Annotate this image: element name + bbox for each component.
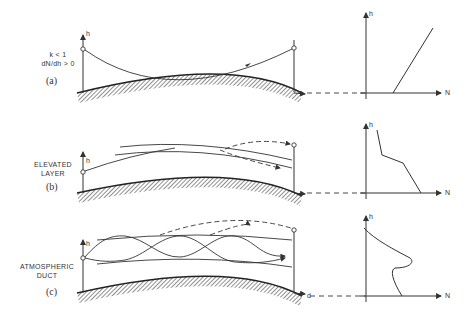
n-profile-c [364,228,412,296]
earth-surface-b [77,177,302,206]
receiver-antenna-b [292,143,296,147]
transmitter-antenna-b [81,170,85,174]
d-label-c: d [307,292,311,299]
h-label-profile-c: h [369,213,373,220]
panel-b [77,124,441,206]
duct-ray-1-c [85,236,285,257]
panel-a [77,13,441,103]
dashed-ray-escape-2-c [210,224,250,235]
n-label-profile-a: N [445,89,450,96]
condition-label-a: k < 1 dN/dh > 0 [38,50,78,68]
h-label-profile-a: h [369,10,373,17]
transmitter-antenna-c [81,256,85,260]
earth-surface-c [77,276,302,306]
panel-id-b: (b) [46,181,58,192]
h-label-mast-b: h [86,157,90,164]
panel-c [77,216,441,306]
condition-label-c: ATMOSPHERIC DUCT [16,262,78,280]
transmitter-antenna-a [81,47,85,51]
dashed-ray-escape-1-c [160,220,291,235]
n-profile-a [393,28,433,93]
h-label-mast-c: h [86,240,90,247]
n-label-profile-b: N [445,189,450,196]
panel-id-a: (a) [46,75,57,86]
condition-label-b: ELEVATED LAYER [28,160,78,178]
earth-surface-a [77,74,302,103]
n-profile-b [377,130,421,193]
h-label-profile-b: h [369,121,373,128]
panel-id-c: (c) [46,286,57,297]
receiver-antenna-c [292,228,296,232]
duct-bottom-c [97,259,292,267]
receiver-antenna-a [292,46,296,50]
dashed-ray-up-b [225,141,290,149]
n-label-profile-c: N [445,292,450,299]
h-label-mast-a: h [86,30,90,37]
